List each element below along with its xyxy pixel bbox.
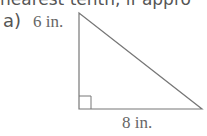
- base-label: 8 in.: [122, 113, 152, 133]
- right-triangle-figure: [0, 0, 207, 136]
- height-label: 6 in.: [33, 12, 63, 32]
